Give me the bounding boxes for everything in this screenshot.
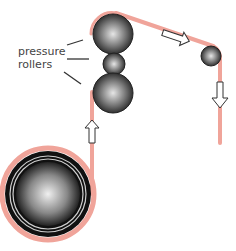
label-pressure: pressure <box>18 45 66 58</box>
pressure-roller-top <box>93 14 133 54</box>
guide-roller <box>201 46 221 66</box>
rolling-diagram <box>0 0 236 251</box>
leader-lines <box>64 40 89 84</box>
pressure-roller-middle <box>103 53 125 75</box>
arrow-down-icon <box>212 82 228 108</box>
coil <box>5 151 91 237</box>
arrow-up-icon <box>85 120 99 143</box>
label-rollers: rollers <box>18 58 52 71</box>
pressure-roller-bottom <box>93 73 133 113</box>
